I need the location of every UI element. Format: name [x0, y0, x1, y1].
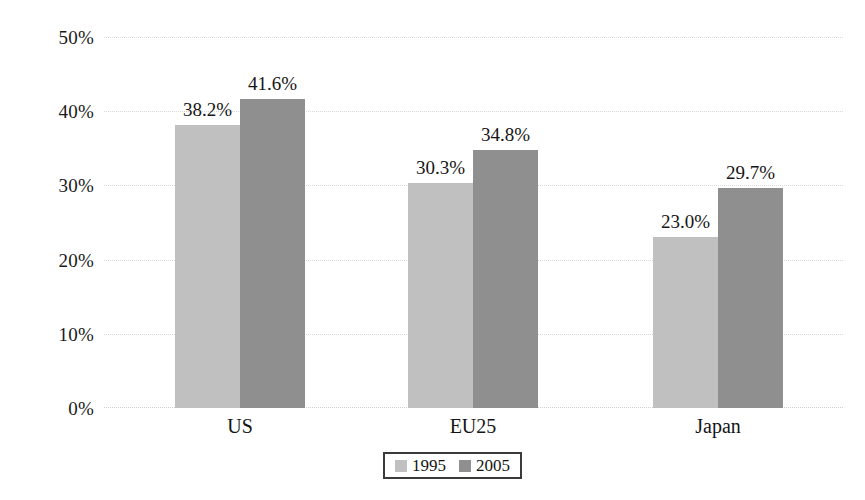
y-tick-label-4: 10%: [4, 324, 94, 343]
y-tick-label-5: 0%: [4, 399, 94, 418]
bar-chart: 50% 40% 30% 20% 10% 0% 38.2% 41.6% 30.3%: [0, 0, 865, 500]
bar-japan-2005[interactable]: 29.7%: [718, 188, 783, 408]
bar-value-label-eu25-1995: 30.3%: [396, 158, 486, 177]
y-axis: 50% 40% 30% 20% 10% 0%: [0, 37, 94, 408]
bar-us-2005[interactable]: 41.6%: [240, 99, 305, 408]
chart-legend: 1995 2005: [383, 452, 522, 479]
bar-value-label-us-2005: 41.6%: [228, 74, 318, 93]
bar-us-1995[interactable]: 38.2%: [175, 125, 240, 409]
legend-item-2005[interactable]: 2005: [459, 457, 510, 474]
bar-group-japan: 23.0% 29.7%: [653, 37, 783, 408]
bar-eu25-2005[interactable]: 34.8%: [473, 150, 538, 408]
x-axis-label-us: US: [140, 416, 340, 436]
legend-label-2005: 2005: [476, 457, 510, 474]
x-axis-label-eu25: EU25: [373, 416, 573, 436]
legend-item-1995[interactable]: 1995: [395, 457, 446, 474]
bar-eu25-1995[interactable]: 30.3%: [408, 183, 473, 408]
bar-group-us: 38.2% 41.6%: [175, 37, 305, 408]
legend-label-1995: 1995: [412, 457, 446, 474]
legend-swatch-1995-icon: [395, 460, 407, 472]
bar-group-eu25: 30.3% 34.8%: [408, 37, 538, 408]
plot-area: 38.2% 41.6% 30.3% 34.8% 23.0% 29.7%: [104, 37, 843, 408]
bar-value-label-japan-1995: 23.0%: [641, 212, 731, 231]
bar-value-label-japan-2005: 29.7%: [706, 163, 796, 182]
y-tick-label-2: 30%: [4, 176, 94, 195]
x-axis-label-japan: Japan: [618, 416, 818, 436]
legend-swatch-2005-icon: [459, 460, 471, 472]
bar-value-label-eu25-2005: 34.8%: [461, 125, 551, 144]
y-tick-label-1: 40%: [4, 102, 94, 121]
bar-value-label-us-1995: 38.2%: [163, 100, 253, 119]
y-tick-label-3: 20%: [4, 250, 94, 269]
y-tick-label-0: 50%: [4, 28, 94, 47]
bar-japan-1995[interactable]: 23.0%: [653, 237, 718, 408]
